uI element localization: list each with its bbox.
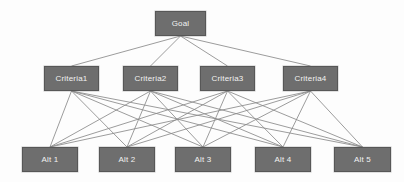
node-label-a5: Alt 5	[354, 155, 371, 163]
edge-c4-a4	[283, 91, 311, 147]
edge-c4-a1	[50, 91, 311, 147]
edge-goal-c3	[181, 36, 228, 66]
edge-c2-a4	[151, 91, 284, 147]
node-label-a2: Alt 2	[118, 155, 135, 163]
edge-c1-a1	[50, 91, 72, 147]
node-c2[interactable]: Criteria2	[123, 66, 178, 91]
node-label-a4: Alt 4	[274, 155, 291, 163]
edge-c2-a1	[50, 91, 151, 147]
node-label-c3: Criteria3	[211, 74, 243, 82]
edge-c3-a3	[203, 91, 228, 147]
node-a2[interactable]: Alt 2	[99, 147, 155, 172]
edge-c1-a2	[72, 91, 128, 147]
node-label-c1: Criteria1	[55, 74, 87, 82]
node-label-c4: Criteria4	[294, 74, 326, 82]
edge-c3-a2	[127, 91, 228, 147]
node-a5[interactable]: Alt 5	[334, 147, 391, 172]
node-label-goal: Goal	[172, 19, 190, 27]
edge-goal-c4	[181, 36, 311, 66]
node-a1[interactable]: Alt 1	[22, 147, 78, 172]
node-goal[interactable]: Goal	[155, 11, 206, 36]
ahp-hierarchy-diagram: GoalCriteria1Criteria2Criteria3Criteria4…	[0, 0, 404, 182]
node-a3[interactable]: Alt 3	[175, 147, 231, 172]
node-c1[interactable]: Criteria1	[44, 66, 99, 91]
node-label-a3: Alt 3	[194, 155, 211, 163]
node-label-c2: Criteria2	[134, 74, 166, 82]
node-c4[interactable]: Criteria4	[283, 66, 338, 91]
edge-goal-c1	[72, 36, 181, 66]
edge-c3-a1	[50, 91, 228, 147]
node-c3[interactable]: Criteria3	[200, 66, 255, 91]
node-label-a1: Alt 1	[41, 155, 58, 163]
node-a4[interactable]: Alt 4	[255, 147, 311, 172]
edge-c3-a4	[228, 91, 284, 147]
